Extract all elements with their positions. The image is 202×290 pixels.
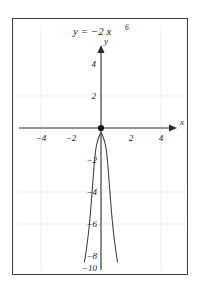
vertex-point [98, 125, 104, 131]
x-axis-arrow [169, 124, 177, 131]
plot-canvas: −4 −2 2 4 4 2 −2 −4 −6 −8 −10 x y y = −2… [13, 19, 189, 276]
x-tick-label-minus4: −4 [36, 133, 47, 143]
y-tick-label-2: 2 [92, 91, 97, 101]
y-axis [97, 45, 104, 270]
y-axis-name: y [103, 36, 108, 46]
x-tick-label-2: 2 [129, 133, 134, 143]
figure-root: −4 −2 2 4 4 2 −2 −4 −6 −8 −10 x y y = −2… [0, 0, 202, 290]
plot-title-exponent: 6 [125, 23, 129, 32]
y-tick-label-minus4: −4 [86, 187, 97, 197]
x-tick-label-4: 4 [159, 133, 164, 143]
y-tick-label-minus10: −10 [82, 263, 98, 273]
y-axis-arrow [97, 45, 104, 53]
x-axis-name: x [179, 117, 184, 127]
y-tick-label-4: 4 [92, 59, 97, 69]
plot-title: y = −2 x 6 [72, 23, 129, 37]
y-tick-label-minus8: −8 [86, 251, 97, 261]
y-tick-label-minus2: −2 [86, 155, 97, 165]
x-tick-label-minus2: −2 [66, 133, 77, 143]
y-tick-label-minus6: −6 [86, 219, 97, 229]
plot-title-text: y = −2 x [72, 25, 111, 37]
figure-frame: −4 −2 2 4 4 2 −2 −4 −6 −8 −10 x y y = −2… [12, 18, 188, 275]
